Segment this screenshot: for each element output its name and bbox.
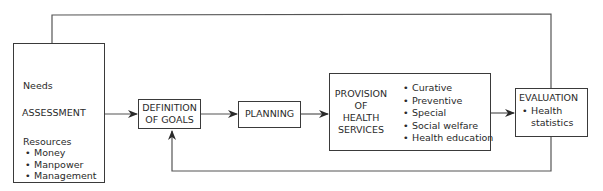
service-item: Preventive xyxy=(403,95,493,108)
evaluation-item: Health xyxy=(522,105,562,117)
services-list: Curative Preventive Special Social welfa… xyxy=(403,82,493,145)
planning-label: PLANNING xyxy=(238,108,301,120)
needs-label: Needs xyxy=(23,80,53,92)
provision-line: HEALTH xyxy=(330,112,392,124)
resource-item: Management xyxy=(25,170,97,182)
resource-item: Money xyxy=(25,147,97,159)
definition-line2: OF GOALS xyxy=(138,114,201,126)
resources-list: Money Manpower Management xyxy=(25,147,97,182)
service-item: Health education xyxy=(403,132,493,145)
assessment-title: ASSESSMENT xyxy=(22,107,86,119)
service-item: Social welfare xyxy=(403,120,493,133)
definition-label: DEFINITION OF GOALS xyxy=(138,102,201,126)
provision-label: PROVISION OF HEALTH SERVICES xyxy=(330,88,392,136)
evaluation-list: Health xyxy=(522,105,562,117)
service-item: Special xyxy=(403,107,493,120)
evaluation-item-cont: statistics xyxy=(531,117,573,129)
provision-line: OF xyxy=(330,100,392,112)
definition-line1: DEFINITION xyxy=(138,102,201,114)
provision-line: SERVICES xyxy=(330,124,392,136)
evaluation-title: EVALUATION xyxy=(519,92,578,104)
resource-item: Manpower xyxy=(25,159,97,171)
service-item: Curative xyxy=(403,82,493,95)
provision-line: PROVISION xyxy=(330,88,392,100)
